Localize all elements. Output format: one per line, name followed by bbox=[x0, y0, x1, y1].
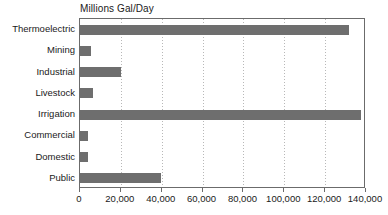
y-axis-label: Mining bbox=[47, 39, 75, 60]
x-axis-tick bbox=[283, 188, 284, 192]
x-axis-tick-label: 20,000 bbox=[105, 193, 134, 205]
x-axis-tick bbox=[242, 188, 243, 192]
bar-row bbox=[80, 83, 365, 104]
bar-domestic[interactable] bbox=[80, 152, 88, 162]
y-axis-category-labels: ThermoelectricMiningIndustrialLivestockI… bbox=[0, 18, 75, 188]
x-axis-tick-label: 0 bbox=[76, 193, 81, 205]
x-axis-tick bbox=[120, 188, 121, 192]
x-axis-tick-label: 60,000 bbox=[187, 193, 216, 205]
y-axis-label: Irrigation bbox=[38, 103, 75, 124]
x-axis-tick-label: 120,000 bbox=[307, 193, 341, 205]
bar-livestock[interactable] bbox=[80, 88, 93, 98]
bar-chart-figure: Millions Gal/Day ThermoelectricMiningInd… bbox=[0, 0, 388, 215]
bar-row bbox=[80, 40, 365, 61]
bar-row bbox=[80, 104, 365, 125]
bar-row bbox=[80, 125, 365, 146]
bar-industrial[interactable] bbox=[80, 67, 121, 77]
chart-title: Millions Gal/Day bbox=[80, 2, 154, 15]
bar-public[interactable] bbox=[80, 173, 161, 183]
x-axis-tick bbox=[79, 188, 80, 192]
bar-row bbox=[80, 62, 365, 83]
x-axis-tick bbox=[324, 188, 325, 192]
y-axis-label: Commercial bbox=[24, 124, 75, 145]
x-axis-tick-label: 80,000 bbox=[228, 193, 257, 205]
x-axis-tick-label: 40,000 bbox=[146, 193, 175, 205]
plot-area bbox=[79, 18, 365, 188]
bars-layer bbox=[80, 19, 364, 187]
x-axis-tick-label: 140,000 bbox=[348, 193, 382, 205]
x-axis-tick bbox=[202, 188, 203, 192]
x-axis: 020,00040,00060,00080,000100,000120,0001… bbox=[79, 188, 365, 215]
bar-mining[interactable] bbox=[80, 46, 91, 56]
y-axis-label: Domestic bbox=[35, 146, 75, 167]
bar-row bbox=[80, 168, 365, 188]
x-axis-tick-label: 100,000 bbox=[266, 193, 300, 205]
x-axis-tick bbox=[365, 188, 366, 192]
y-axis-label: Thermoelectric bbox=[12, 18, 75, 39]
bar-commercial[interactable] bbox=[80, 131, 88, 141]
x-axis-tick bbox=[161, 188, 162, 192]
y-axis-label: Livestock bbox=[35, 82, 75, 103]
y-axis-label: Public bbox=[49, 167, 75, 188]
bar-irrigation[interactable] bbox=[80, 110, 361, 120]
bar-thermoelectric[interactable] bbox=[80, 25, 349, 35]
bar-row bbox=[80, 19, 365, 40]
y-axis-label: Industrial bbox=[36, 61, 75, 82]
bar-row bbox=[80, 147, 365, 168]
